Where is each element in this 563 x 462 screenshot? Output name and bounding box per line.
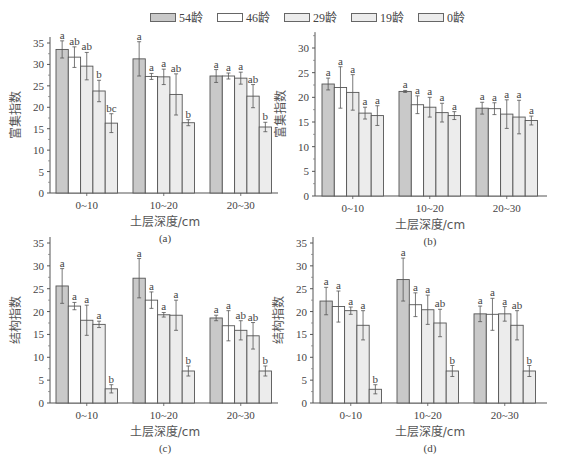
- significance-letter: ab: [82, 40, 93, 52]
- bar: [235, 330, 247, 403]
- bar: [68, 306, 80, 403]
- bar: [409, 305, 421, 403]
- y-axis-label: 结构指数: [271, 296, 286, 344]
- significance-letter: b: [263, 354, 269, 366]
- y-tick-label: 15: [33, 328, 45, 340]
- bar: [222, 76, 234, 193]
- chart-figure: 05101520253035富集指数aababbbc0~10aaaabb10~2…: [0, 0, 563, 462]
- significance-letter: a: [440, 91, 445, 103]
- significance-letter: a: [492, 91, 497, 103]
- bar: [247, 96, 259, 193]
- bar: [359, 113, 371, 196]
- bar: [436, 113, 448, 196]
- significance-letter: ab: [248, 311, 259, 323]
- bar: [210, 76, 222, 193]
- x-tick-label: 20~30: [227, 409, 255, 421]
- bar: [235, 78, 247, 193]
- y-tick-label: 5: [39, 374, 45, 386]
- y-tick-label: 0: [304, 190, 310, 202]
- bar: [133, 59, 145, 193]
- y-tick-label: 20: [33, 101, 45, 113]
- y-tick-label: 0: [39, 397, 45, 409]
- y-tick-label: 20: [33, 306, 45, 318]
- y-tick-label: 0: [302, 397, 308, 409]
- significance-letter: b: [527, 354, 533, 366]
- bar: [259, 127, 271, 193]
- bar: [448, 116, 460, 196]
- y-tick-label: 10: [33, 144, 45, 156]
- significance-letter: a: [214, 58, 219, 70]
- y-tick-label: 30: [33, 58, 45, 70]
- significance-letter: a: [517, 88, 522, 100]
- significance-letter: a: [490, 286, 495, 298]
- significance-letter: a: [350, 63, 355, 75]
- bar: [399, 91, 411, 196]
- significance-letter: a: [480, 90, 485, 102]
- significance-letter: a: [504, 88, 509, 100]
- y-tick-label: 5: [302, 374, 308, 386]
- bar: [424, 107, 436, 196]
- y-tick-label: 30: [298, 42, 310, 54]
- significance-letter: a: [137, 247, 142, 259]
- x-tick-label: 10~20: [414, 409, 442, 421]
- y-tick-label: 5: [304, 165, 310, 177]
- x-tick-label: 20~30: [227, 199, 255, 211]
- bar: [488, 109, 500, 196]
- significance-letter: a: [84, 293, 89, 305]
- significance-letter: a: [336, 279, 341, 291]
- x-tick-label: 0~10: [76, 409, 99, 421]
- y-tick-label: 15: [298, 116, 310, 128]
- y-tick-label: 20: [298, 91, 310, 103]
- bar: [182, 123, 194, 193]
- significance-letter: a: [478, 294, 483, 306]
- y-tick-label: 25: [298, 67, 310, 79]
- y-tick-label: 25: [33, 80, 45, 92]
- x-tick-label: 0~10: [76, 199, 99, 211]
- significance-letter: a: [149, 61, 154, 73]
- significance-letter: a: [324, 275, 329, 287]
- bar: [145, 76, 157, 193]
- y-tick-label: 15: [296, 328, 308, 340]
- bar: [411, 105, 423, 196]
- bar: [476, 108, 488, 196]
- significance-letter: a: [452, 100, 457, 112]
- significance-letter: a: [338, 55, 343, 67]
- bar: [93, 324, 105, 403]
- bar: [56, 49, 68, 193]
- bar: [320, 301, 332, 403]
- significance-letter: a: [348, 295, 353, 307]
- significance-letter: a: [326, 66, 331, 78]
- significance-letter: a: [363, 95, 368, 107]
- y-tick-label: 35: [33, 37, 45, 49]
- significance-letter: a: [214, 303, 219, 315]
- bar: [158, 77, 170, 193]
- bar: [525, 121, 537, 196]
- significance-letter: a: [427, 85, 432, 97]
- y-tick-label: 35: [33, 237, 45, 249]
- significance-letter: ab: [236, 309, 247, 321]
- x-tick-label: 10~20: [150, 409, 178, 421]
- significance-letter: a: [161, 57, 166, 69]
- bar: [322, 84, 334, 196]
- x-axis-label: 土层深度/cm: [130, 214, 200, 229]
- significance-letter: a: [502, 295, 507, 307]
- significance-letter: a: [401, 246, 406, 258]
- significance-letter: b: [109, 373, 115, 385]
- y-tick-label: 30: [296, 260, 308, 272]
- significance-letter: b: [186, 108, 192, 120]
- y-axis-label: 结构指数: [8, 296, 23, 344]
- significance-letter: a: [161, 300, 166, 312]
- significance-letter: b: [373, 373, 379, 385]
- significance-letter: a: [375, 94, 380, 106]
- significance-letter: a: [226, 61, 231, 73]
- significance-letter: a: [72, 290, 77, 302]
- significance-letter: a: [238, 60, 243, 72]
- y-tick-label: 10: [296, 351, 308, 363]
- bar: [210, 318, 222, 403]
- bar: [81, 66, 93, 193]
- significance-letter: b: [450, 354, 456, 366]
- significance-letter: b: [263, 110, 269, 122]
- y-tick-label: 25: [33, 283, 45, 295]
- significance-letter: a: [149, 280, 154, 292]
- bar: [345, 311, 357, 403]
